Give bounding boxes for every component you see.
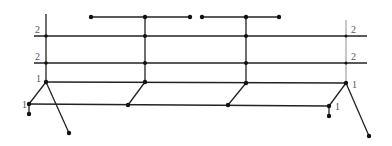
node (143, 80, 147, 84)
node (188, 15, 192, 19)
label-left-base: 1 (22, 99, 27, 110)
node (143, 34, 147, 38)
node (244, 81, 248, 85)
right-diagonal-long (346, 83, 369, 136)
mid-right-diagonal (228, 83, 246, 105)
graph-diagram: 2 2 1 1 2 2 1 1 (0, 0, 392, 146)
node (244, 34, 248, 38)
label-left-upper: 2 (35, 24, 40, 35)
node (344, 81, 348, 85)
label-left-lower: 1 (36, 73, 41, 84)
node (143, 61, 147, 65)
node (143, 15, 147, 19)
label-left-middle: 2 (35, 51, 40, 62)
node (27, 112, 31, 116)
node (244, 15, 248, 19)
label-right-base: 1 (335, 101, 340, 112)
node (67, 131, 71, 135)
left-diagonal-long (46, 82, 69, 133)
node (44, 34, 48, 38)
node (244, 61, 248, 65)
node (89, 15, 93, 19)
node (277, 15, 281, 19)
level-1 (46, 82, 346, 83)
node (44, 61, 48, 65)
node (126, 103, 130, 107)
node (327, 114, 331, 118)
node (327, 104, 331, 108)
node (367, 134, 371, 138)
node (44, 80, 48, 84)
node (226, 103, 230, 107)
label-right-lower: 1 (352, 79, 357, 90)
label-right-middle: 2 (351, 51, 356, 62)
node (27, 102, 31, 106)
node (200, 15, 204, 19)
level-1-base (29, 104, 329, 106)
left-diagonal-short (29, 82, 46, 104)
label-right-upper: 2 (351, 24, 356, 35)
node (345, 35, 348, 38)
node (345, 62, 348, 65)
nodes (27, 15, 371, 138)
mid-left-diagonal (128, 82, 145, 105)
